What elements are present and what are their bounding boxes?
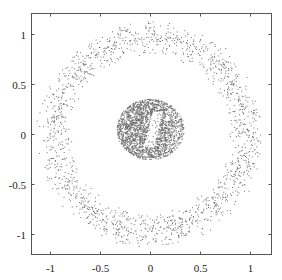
y-tick-label: 0 <box>21 129 27 141</box>
x-tick-label: 1 <box>248 262 254 274</box>
x-tick-label: 0 <box>148 262 154 274</box>
x-tick-label: 0.5 <box>194 262 208 274</box>
y-axis-ticks: -1-0.500.51 <box>9 29 272 241</box>
x-tick-label: -1 <box>46 262 55 274</box>
scatter-markers <box>37 21 262 247</box>
y-tick-label: -0.5 <box>9 179 27 191</box>
y-tick-label: -1 <box>17 229 26 241</box>
y-tick-label: 1 <box>21 29 27 41</box>
axes-frame <box>32 14 272 255</box>
data-points <box>37 21 262 247</box>
x-tick-label: -0.5 <box>92 262 110 274</box>
scatter-plot: -1-0.500.51 -1-0.500.51 <box>0 0 282 280</box>
y-tick-label: 0.5 <box>12 79 26 91</box>
